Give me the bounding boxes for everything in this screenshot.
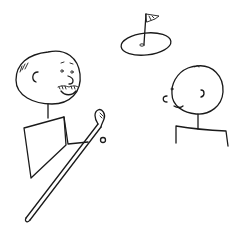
flag-icon: [144, 14, 159, 44]
sketch-canvas: Hand-drawn line sketch of two stick figu…: [0, 0, 240, 237]
hand-icon: [101, 138, 106, 143]
golf-green: [120, 30, 172, 57]
person-right: [163, 66, 228, 147]
